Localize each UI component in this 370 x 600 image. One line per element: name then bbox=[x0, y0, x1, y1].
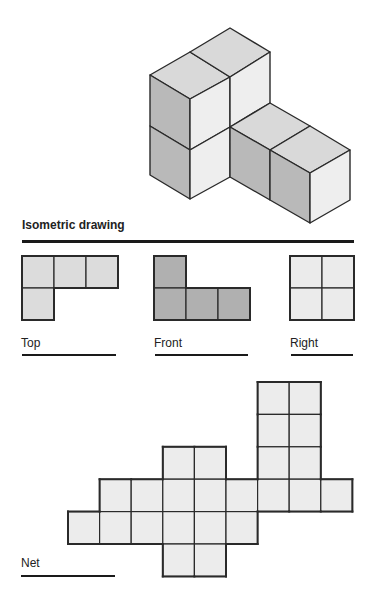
net-cell bbox=[258, 382, 290, 414]
front-view-cell bbox=[154, 288, 186, 320]
right-view-cell bbox=[322, 256, 354, 288]
top-view-cell bbox=[54, 256, 86, 288]
net-cell bbox=[194, 447, 226, 479]
net-cell bbox=[321, 479, 353, 511]
net-cell bbox=[163, 512, 195, 544]
net-underline bbox=[21, 575, 115, 577]
net-cell bbox=[226, 512, 258, 544]
net-cell bbox=[163, 479, 195, 511]
diagram-canvas bbox=[0, 0, 370, 600]
right-view-cell bbox=[290, 256, 322, 288]
top-view-cell bbox=[22, 288, 54, 320]
net-cell bbox=[258, 479, 290, 511]
net-cell bbox=[289, 447, 321, 479]
net-cell bbox=[163, 544, 195, 576]
right-view-cell bbox=[322, 288, 354, 320]
net-cell bbox=[131, 479, 163, 511]
front-view-underline bbox=[155, 354, 248, 356]
net-cell bbox=[194, 544, 226, 576]
top-view bbox=[22, 256, 118, 320]
net-cell bbox=[100, 512, 132, 544]
net-cell bbox=[258, 414, 290, 446]
front-view-cell bbox=[154, 256, 186, 288]
top-view-cell bbox=[86, 256, 118, 288]
front-view-label: Front bbox=[154, 336, 182, 350]
front-view-cell bbox=[186, 288, 218, 320]
front-view bbox=[154, 256, 250, 320]
net-cell bbox=[289, 414, 321, 446]
net-cell bbox=[289, 382, 321, 414]
net-cell bbox=[194, 479, 226, 511]
right-view-label: Right bbox=[290, 336, 318, 350]
orthographic-views bbox=[22, 256, 354, 576]
net-cell bbox=[194, 512, 226, 544]
net-label: Net bbox=[21, 556, 40, 570]
right-view-cell bbox=[290, 288, 322, 320]
section-title: Isometric drawing bbox=[22, 218, 125, 232]
front-view-cell bbox=[218, 288, 250, 320]
right-view-underline bbox=[291, 354, 353, 356]
net bbox=[68, 382, 352, 576]
top-view-label: Top bbox=[21, 336, 40, 350]
net-cell bbox=[68, 512, 100, 544]
net-cell bbox=[131, 512, 163, 544]
right-view bbox=[290, 256, 354, 320]
top-view-cell bbox=[22, 256, 54, 288]
net-cell bbox=[258, 447, 290, 479]
top-view-underline bbox=[22, 354, 116, 356]
title-divider bbox=[22, 240, 354, 243]
isometric-drawing bbox=[150, 28, 350, 223]
net-cell bbox=[100, 479, 132, 511]
net-cell bbox=[226, 479, 258, 511]
net-cell bbox=[289, 479, 321, 511]
net-cell bbox=[163, 447, 195, 479]
